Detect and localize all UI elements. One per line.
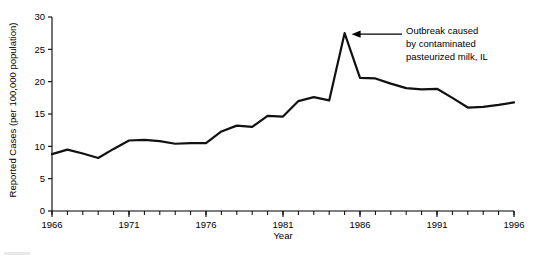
y-tick-label: 0	[40, 205, 45, 216]
x-axis-title: Year	[273, 230, 292, 241]
y-tick-label: 5	[40, 173, 45, 184]
y-tick-label: 25	[34, 44, 45, 55]
annotation-line-1: Outbreak caused	[406, 25, 478, 36]
x-tick-label: 1966	[41, 219, 62, 230]
x-tick-label: 1981	[272, 219, 293, 230]
y-axis-title: Reported Cases (per 100,000 population)	[7, 23, 18, 198]
annotation-arrow-head	[352, 31, 361, 38]
outbreak-annotation: Outbreak caused by contaminated pasteuri…	[352, 25, 488, 62]
x-tick-label: 1976	[195, 219, 216, 230]
annotation-line-3: pasteurized milk, IL	[406, 51, 488, 62]
x-tick-label: 1991	[426, 219, 447, 230]
x-axis-tick-labels: 1966197119761981198619911996	[41, 219, 524, 230]
caption-rule	[4, 252, 30, 255]
x-axis-ticks	[52, 211, 514, 217]
y-tick-label: 10	[34, 141, 45, 152]
y-axis-ticks	[48, 17, 52, 211]
y-tick-label: 15	[34, 108, 45, 119]
chart-figure: Reported Cases (per 100,000 population) …	[0, 0, 553, 264]
x-tick-label: 1996	[503, 219, 524, 230]
x-tick-label: 1971	[118, 219, 139, 230]
y-axis-tick-labels: 051015202530	[34, 11, 45, 216]
y-tick-label: 20	[34, 76, 45, 87]
y-tick-label: 30	[34, 11, 45, 22]
line-chart-canvas: Reported Cases (per 100,000 population) …	[0, 0, 553, 264]
annotation-line-2: by contaminated	[406, 38, 476, 49]
x-tick-label: 1986	[349, 219, 370, 230]
